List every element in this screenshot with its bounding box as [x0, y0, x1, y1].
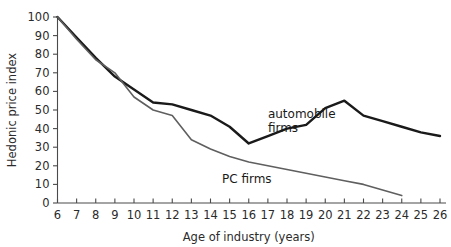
- y-tick-label: 60: [35, 84, 50, 98]
- y-tick-label: 0: [42, 196, 49, 210]
- hedonic-price-index-chart: 0102030405060708090100 67891011121314151…: [0, 0, 451, 247]
- x-tick-label: 11: [146, 208, 161, 222]
- x-tick-label: 16: [241, 208, 256, 222]
- x-tick-label: 26: [433, 208, 448, 222]
- pc-firms-label: PC firms: [222, 172, 272, 186]
- y-axis-title: Hedonic price index: [5, 53, 19, 167]
- x-tick-label: 18: [280, 208, 295, 222]
- x-tick-label: 13: [184, 208, 199, 222]
- series-line-automobile-firms: [58, 17, 441, 143]
- x-tick-label: 6: [54, 208, 61, 222]
- x-tick-label: 22: [356, 208, 371, 222]
- y-tick-label: 40: [35, 122, 50, 136]
- y-tick-label: 70: [35, 66, 50, 80]
- x-tick-label: 15: [222, 208, 237, 222]
- x-tick-label: 21: [337, 208, 352, 222]
- x-tick-label: 25: [414, 208, 429, 222]
- x-tick-label: 10: [127, 208, 142, 222]
- x-axis-title: Age of industry (years): [183, 230, 315, 244]
- series-annotations: automobilefirmsPC firms: [222, 107, 336, 186]
- series-group: [58, 17, 441, 196]
- x-tick-label: 23: [375, 208, 390, 222]
- y-tick-label: 20: [35, 159, 50, 173]
- y-tick-label: 10: [35, 177, 50, 191]
- y-tick-label: 100: [28, 10, 50, 24]
- x-tick-label: 19: [299, 208, 314, 222]
- x-tick-label: 9: [111, 208, 118, 222]
- x-tick-label: 7: [73, 208, 80, 222]
- y-tick-label: 80: [35, 47, 50, 61]
- x-axis-ticks: 67891011121314151617181920212223242526: [54, 199, 447, 223]
- y-axis-ticks: 0102030405060708090100: [28, 10, 58, 210]
- x-tick-label: 17: [261, 208, 276, 222]
- y-tick-label: 50: [35, 103, 50, 117]
- x-tick-label: 8: [92, 208, 99, 222]
- automobile-label-line2: firms: [268, 121, 298, 135]
- y-tick-label: 30: [35, 140, 50, 154]
- chart-canvas: 0102030405060708090100 67891011121314151…: [0, 0, 451, 247]
- x-tick-label: 20: [318, 208, 333, 222]
- x-tick-label: 14: [203, 208, 218, 222]
- x-tick-label: 12: [165, 208, 180, 222]
- x-tick-label: 24: [394, 208, 409, 222]
- y-tick-label: 90: [35, 29, 50, 43]
- automobile-label-line1: automobile: [268, 107, 336, 121]
